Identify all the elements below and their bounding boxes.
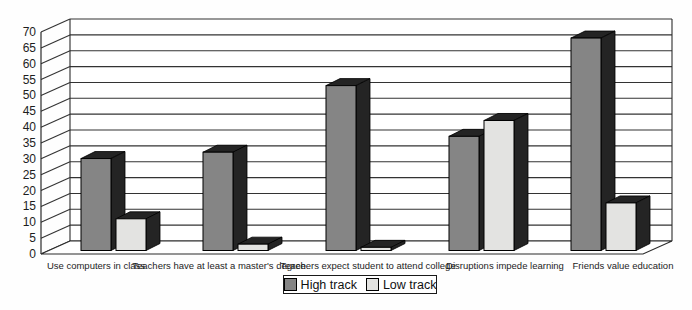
y-axis-tick-label: 0 (29, 247, 36, 261)
y-axis-tick-label: 55 (23, 73, 37, 87)
legend-item-low-track: Low track (366, 278, 437, 292)
y-axis-tick-label: 60 (23, 57, 37, 71)
gridline-diagonal (41, 146, 70, 159)
bar-low-track (606, 203, 636, 251)
grouped-bar-chart-3d: 0510152025303540455055606570Use computer… (0, 0, 692, 310)
y-axis-tick-label: 20 (23, 184, 37, 198)
gridline-diagonal (41, 209, 70, 222)
bar-low-track-side-face (146, 212, 160, 251)
bar-low-track (238, 244, 268, 250)
bar-low-track-side-face (636, 196, 650, 251)
legend-label-high-track: High track (301, 278, 357, 292)
bar-high-track (449, 136, 479, 250)
gridline-diagonal (41, 162, 70, 175)
legend-label-low-track: Low track (383, 278, 437, 292)
bar-low-track (116, 219, 146, 251)
y-axis-tick-label: 50 (23, 88, 37, 102)
legend-swatch-low-track (366, 278, 379, 291)
gridline-diagonal (41, 225, 70, 238)
bar-high-track (571, 38, 601, 250)
y-axis-tick-label: 40 (23, 120, 37, 134)
bar-low-track (484, 120, 514, 250)
y-axis-tick-label: 45 (23, 104, 37, 118)
gridline-diagonal (41, 51, 70, 64)
bar-high-track-side-face (233, 145, 247, 250)
gridline-diagonal (41, 67, 70, 80)
category-label: Use computers in class (47, 260, 145, 271)
gridline-diagonal (41, 82, 70, 95)
chart-plot-area: 0510152025303540455055606570Use computer… (0, 0, 692, 310)
legend-swatch-high-track (284, 278, 297, 291)
y-axis-tick-label: 15 (23, 199, 37, 213)
category-label: Teachers expect student to attend colleg… (280, 260, 455, 271)
gridline-diagonal (41, 178, 70, 191)
bar-low-track (361, 247, 391, 250)
y-axis-tick-label: 25 (23, 168, 37, 182)
gridline-diagonal (41, 130, 70, 143)
y-axis-tick-label: 5 (29, 231, 36, 245)
bar-low-track-side-face (514, 113, 528, 250)
legend-item-high-track: High track (284, 278, 357, 292)
category-label: Friends value education (573, 260, 674, 271)
category-label: Disruptions impede learning (446, 260, 564, 271)
chart-legend: High track Low track (283, 275, 437, 294)
bar-high-track (326, 86, 356, 251)
bar-high-track-side-face (356, 79, 370, 251)
y-axis-tick-label: 70 (23, 25, 37, 39)
gridline-diagonal (41, 19, 70, 32)
y-axis-tick-label: 35 (23, 136, 37, 150)
bar-high-track (203, 152, 233, 250)
gridline-diagonal (41, 98, 70, 111)
bar-high-track (81, 159, 111, 251)
gridline-diagonal (41, 193, 70, 206)
y-axis-tick-label: 10 (23, 215, 37, 229)
gridline-diagonal (41, 35, 70, 48)
y-axis-tick-label: 65 (23, 41, 37, 55)
y-axis-tick-label: 30 (23, 152, 37, 166)
gridline-diagonal (41, 114, 70, 127)
